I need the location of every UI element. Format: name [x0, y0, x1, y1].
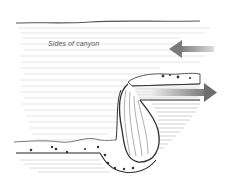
inflow-arrow-icon	[169, 40, 214, 58]
canyon-diagram: Sides of canyon	[0, 0, 230, 182]
lower-channel-top	[14, 138, 116, 142]
canyon-sides-label: Sides of canyon	[48, 40, 99, 47]
pebbles-lower	[30, 146, 135, 170]
canyon-rim-line	[16, 21, 200, 23]
